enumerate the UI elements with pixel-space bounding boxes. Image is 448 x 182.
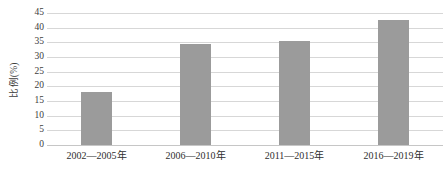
y-axis-tick-label: 35 <box>35 38 45 48</box>
y-axis-tick-label: 30 <box>35 52 45 62</box>
y-axis-tick-label: 40 <box>35 23 45 33</box>
y-axis-tick-label: 25 <box>35 67 45 77</box>
y-axis-title: 比例(%) <box>2 0 24 160</box>
x-axis-tick-label: 2006—2010年 <box>166 150 226 162</box>
y-axis-tick-label: 45 <box>35 8 45 18</box>
y-axis-tick-label: 10 <box>35 111 45 121</box>
x-axis-tick-label: 2002—2005年 <box>67 150 127 162</box>
bars-layer <box>47 13 443 145</box>
bar <box>81 92 112 145</box>
y-axis-tick-label: 15 <box>35 96 45 106</box>
x-axis-tick-label: 2016—2019年 <box>364 150 424 162</box>
gridline <box>47 145 443 146</box>
x-axis-tick-label: 2011—2015年 <box>265 150 325 162</box>
bar <box>378 20 409 145</box>
plot-area <box>47 13 443 145</box>
y-axis-tick-label: 5 <box>39 126 44 136</box>
bar <box>180 44 211 145</box>
y-axis-tick-label: 0 <box>39 140 44 150</box>
x-axis-tick-labels: 2002—2005年2006—2010年2011—2015年2016—2019年 <box>47 150 443 168</box>
y-axis-title-text: 比例(%) <box>6 62 20 97</box>
y-axis-tick-labels: 051015202530354045 <box>22 13 44 145</box>
bar <box>279 41 310 145</box>
y-axis-tick-label: 20 <box>35 82 45 92</box>
bar-chart: 比例(%) 051015202530354045 2002—2005年2006—… <box>0 0 448 182</box>
